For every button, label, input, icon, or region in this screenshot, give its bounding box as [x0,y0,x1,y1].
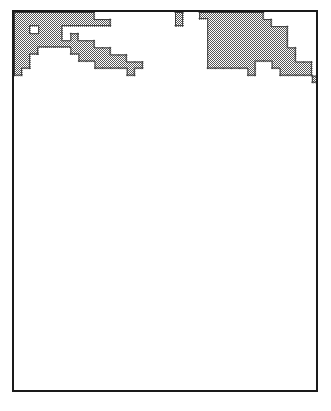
plot-frame [12,10,318,392]
grid-canvas-wrap [14,12,316,390]
raster-cell-map-figure [0,0,331,411]
raster-grid-canvas[interactable] [14,12,316,390]
